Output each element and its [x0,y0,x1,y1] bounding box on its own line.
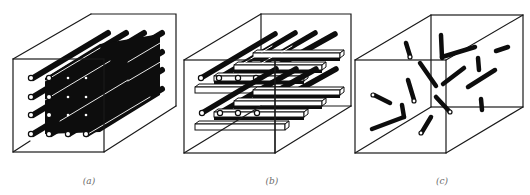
panel-a-fibers [28,33,162,140]
panel-c-cube [355,15,523,153]
composite-fiber-figure [0,0,530,195]
panel-b-label: (b) [257,176,287,186]
panel-c-label: (c) [427,176,457,186]
panel-b-cube [184,14,351,153]
panel-a-cube [13,14,176,152]
panel-c-fibers [372,35,508,132]
panel-a-label: (a) [74,176,104,186]
